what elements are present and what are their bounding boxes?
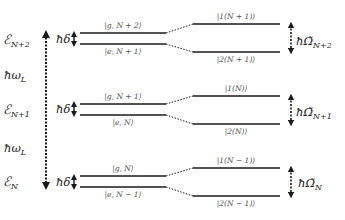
- laser-spacing-label-lower: ħωL: [4, 141, 26, 157]
- connector-upper: [166, 96, 193, 104]
- splitting-label: ħΩ̃N+2: [296, 34, 332, 50]
- connector-lower: [166, 187, 193, 196]
- dressed-state-lower-label: |2(N − 1)⟩: [217, 199, 256, 208]
- connector-lower: [166, 44, 193, 52]
- splitting-label: ħΩ̃N: [298, 176, 323, 192]
- connector-upper: [166, 24, 193, 33]
- manifold-n-plus-1: ħδ |g, N + 1⟩ |e, N⟩ |1(N)⟩ |2(N)⟩ ħΩ̃N+…: [56, 84, 332, 136]
- manifold-n: ħδ |g, N⟩ |e, N − 1⟩ |1(N − 1)⟩ |2(N − 1…: [56, 156, 323, 208]
- bare-state-upper-label: |g, N⟩: [112, 164, 134, 173]
- energy-label-n: ℰN: [3, 174, 19, 191]
- dressed-state-upper-label: |1(N)⟩: [225, 84, 248, 93]
- detuning-label: ħδ: [56, 102, 70, 116]
- bare-state-upper-label: |g, N + 1⟩: [104, 92, 141, 101]
- detuning-label: ħδ: [56, 32, 70, 46]
- connector-upper: [166, 168, 193, 176]
- laser-spacing-label-upper: ħωL: [4, 68, 26, 84]
- bare-state-lower-label: |e, N − 1⟩: [104, 190, 141, 199]
- dressed-state-upper-label: |1(N − 1)⟩: [217, 156, 256, 165]
- bare-state-lower-label: |e, N + 1⟩: [104, 47, 141, 56]
- dressed-state-lower-label: |2(N)⟩: [225, 127, 248, 136]
- bare-state-upper-label: |g, N + 2⟩: [104, 21, 141, 30]
- dressed-state-lower-label: |2(N + 1)⟩: [217, 55, 256, 64]
- energy-level-diagram: ℰN+2 ℰN+1 ℰN ħωL ħωL ħδ |g, N + 2⟩ |e, N…: [0, 0, 345, 220]
- connector-lower: [166, 115, 193, 124]
- energy-label-n-plus-2: ℰN+2: [3, 32, 30, 49]
- splitting-label: ħΩ̃N+1: [296, 105, 332, 121]
- dressed-state-upper-label: |1(N + 1)⟩: [217, 12, 256, 21]
- detuning-label: ħδ: [56, 175, 70, 189]
- energy-label-n-plus-1: ℰN+1: [3, 102, 30, 119]
- manifold-n-plus-2: ħδ |g, N + 2⟩ |e, N + 1⟩ |1(N + 1)⟩ |2(N…: [56, 12, 332, 64]
- bare-state-lower-label: |e, N⟩: [112, 118, 133, 127]
